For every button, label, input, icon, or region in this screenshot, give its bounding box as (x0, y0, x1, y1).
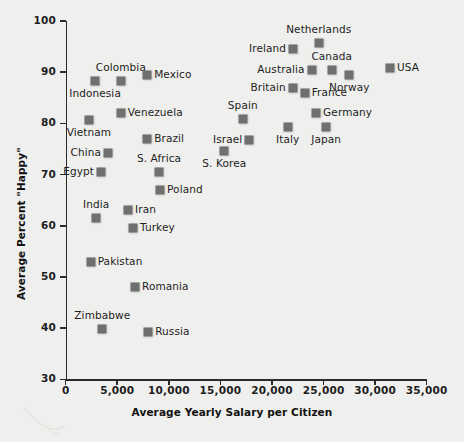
data-label-pakistan: Pakistan (98, 255, 143, 267)
data-label-iran: Iran (135, 203, 156, 215)
data-point-pakistan[interactable] (86, 257, 95, 266)
data-point-norway[interactable] (345, 71, 354, 80)
y-tick-label-60: 60 (22, 219, 56, 231)
data-point-usa[interactable] (386, 63, 395, 72)
data-point-turkey[interactable] (129, 224, 138, 233)
x-tick-label-35000: 35,000 (397, 384, 457, 396)
data-point-venezuela[interactable] (116, 109, 125, 118)
data-label-india: India (83, 198, 109, 210)
data-point-iran[interactable] (124, 205, 133, 214)
data-label-s-africa: S. Africa (137, 152, 181, 164)
data-point-s-africa[interactable] (155, 168, 164, 177)
data-label-japan: Japan (311, 133, 341, 145)
data-point-mexico[interactable] (143, 70, 152, 79)
data-label-colombia: Colombia (96, 61, 146, 73)
data-label-norway: Norway (329, 81, 369, 93)
data-point-india[interactable] (92, 214, 101, 223)
data-label-turkey: Turkey (140, 221, 175, 233)
data-point-egypt[interactable] (96, 168, 105, 177)
y-axis-title: Average Percent "Happy" (15, 147, 27, 300)
data-point-canada[interactable] (327, 66, 336, 75)
data-point-colombia[interactable] (116, 77, 125, 86)
data-label-usa: USA (397, 61, 419, 73)
data-point-romania[interactable] (130, 283, 139, 292)
data-label-mexico: Mexico (154, 68, 191, 80)
y-tick-label-100: 100 (22, 14, 56, 26)
data-label-netherlands: Netherlands (286, 23, 351, 35)
plot-area: IndonesiaColombiaMexicoVietnamVenezuelaB… (66, 21, 427, 380)
data-point-netherlands[interactable] (314, 39, 323, 48)
data-point-china[interactable] (103, 148, 112, 157)
data-label-zimbabwe: Zimbabwe (74, 309, 130, 321)
data-label-canada: Canada (311, 50, 352, 62)
data-point-japan[interactable] (322, 123, 331, 132)
data-point-poland[interactable] (156, 186, 165, 195)
y-tick-label-90: 90 (22, 65, 56, 77)
data-label-vietnam: Vietnam (67, 126, 111, 138)
data-label-s-korea: S. Korea (202, 157, 246, 169)
data-point-spain[interactable] (238, 114, 247, 123)
data-label-brazil: Brazil (154, 132, 184, 144)
data-label-indonesia: Indonesia (69, 87, 121, 99)
data-point-britain[interactable] (288, 83, 297, 92)
data-point-russia[interactable] (144, 327, 153, 336)
data-point-australia[interactable] (307, 66, 316, 75)
data-label-romania: Romania (142, 280, 189, 292)
data-point-ireland[interactable] (289, 45, 298, 54)
scatter-chart: 30405060708090100 05,00010,00015,00020,0… (0, 0, 464, 442)
data-point-zimbabwe[interactable] (98, 324, 107, 333)
y-tick-label-50: 50 (22, 270, 56, 282)
data-point-france[interactable] (300, 88, 309, 97)
data-point-brazil[interactable] (143, 134, 152, 143)
y-tick-label-40: 40 (22, 321, 56, 333)
data-point-germany[interactable] (312, 108, 321, 117)
data-label-italy: Italy (276, 133, 299, 145)
y-tick-label-30: 30 (22, 372, 56, 384)
x-axis-title: Average Yearly Salary per Citizen (0, 406, 464, 418)
data-point-israel[interactable] (245, 135, 254, 144)
data-label-venezuela: Venezuela (128, 106, 183, 118)
y-tick-label-70: 70 (22, 168, 56, 180)
y-tick-label-80: 80 (22, 116, 56, 128)
data-label-spain: Spain (228, 99, 258, 111)
data-point-vietnam[interactable] (84, 115, 93, 124)
data-label-russia: Russia (155, 325, 189, 337)
data-point-indonesia[interactable] (91, 77, 100, 86)
data-label-germany: Germany (323, 106, 372, 118)
data-label-poland: Poland (167, 183, 203, 195)
data-point-s-korea[interactable] (220, 147, 229, 156)
data-point-italy[interactable] (283, 123, 292, 132)
